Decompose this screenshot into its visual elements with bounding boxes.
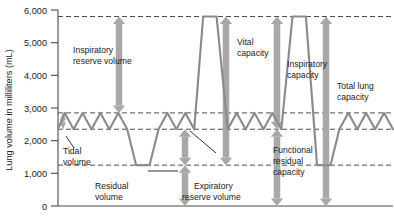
irv-label-line1: Inspiratory [73, 45, 114, 55]
inspiratory-capacity-label-line1: Inspiratory [287, 59, 328, 69]
ytick-label-4000: 4,000 [24, 71, 47, 81]
spirogram-figure: Lung volume in milliliters (mL) 6,000 5,… [0, 0, 394, 224]
irv-label-line2: reserve volume [73, 56, 132, 66]
residual-volume-label-line2: volume [95, 192, 123, 202]
vital-capacity-label-line1: Vital [237, 37, 254, 47]
inspiratory-capacity-label-line2: capacity [287, 70, 319, 80]
residual-volume-label-line1: Residual [95, 181, 129, 191]
ytick-label-5000: 5,000 [24, 38, 47, 48]
expiratory-reserve-volume-arrow-shaft [182, 137, 189, 158]
tlc-label-line1: Total lung [337, 81, 374, 91]
frc-label-line1: Functional [273, 145, 313, 155]
ytick-label-2000: 2,000 [24, 136, 47, 146]
erv-label-line2: reserve volume [182, 192, 241, 202]
inspiratory-capacity-arrow-shaft [274, 24, 281, 122]
tidal-volume-label-line1: Tidal [63, 146, 81, 156]
ytick-label-1000: 1,000 [24, 169, 47, 179]
y-axis-tick-labels: 6,000 5,000 4,000 3,000 2,000 1,000 0 [24, 6, 47, 212]
ytick-label-3000: 3,000 [24, 104, 47, 114]
frc-label-line3: capacity [273, 167, 305, 177]
vital-capacity-label-line2: capacity [237, 48, 269, 58]
total-lung-capacity-arrow-shaft [323, 24, 330, 198]
y-axis-ticks [51, 10, 58, 206]
ytick-label-0: 0 [42, 202, 47, 212]
ytick-label-6000: 6,000 [24, 6, 47, 16]
spirogram-svg: Lung volume in milliliters (mL) 6,000 5,… [0, 0, 394, 224]
erv-label-line1: Expiratory [194, 181, 233, 191]
y-axis-title: Lung volume in milliliters (mL) [4, 49, 14, 171]
tidal-volume-label-line2: volume [63, 157, 91, 167]
frc-label-line2: residual [273, 156, 303, 166]
tlc-label-line2: capacity [337, 92, 369, 102]
